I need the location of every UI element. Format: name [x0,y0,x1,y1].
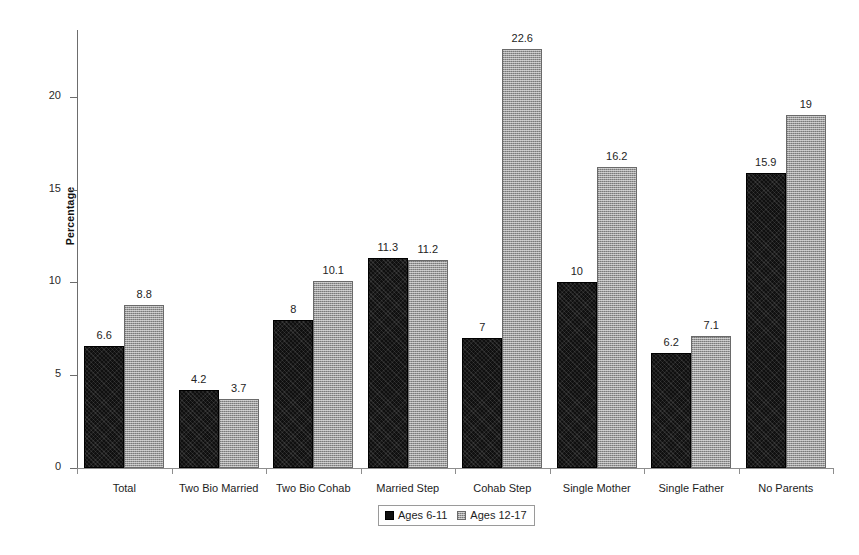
bar-ages-6-11 [368,258,408,468]
bar-value-label: 10.1 [303,264,363,276]
y-axis-tick-label: 0 [55,460,61,472]
y-axis-tick: 0 [70,468,77,469]
y-axis-line [77,30,78,468]
y-axis-tick: 15 [70,190,77,191]
bar-ages-6-11 [462,338,502,468]
y-axis-tick-label: 20 [49,89,61,101]
y-axis-tick-label: 5 [55,367,61,379]
bar-ages-12-17 [219,399,259,468]
bar-ages-6-11 [651,353,691,468]
chart-legend: Ages 6-11 Ages 12-17 [378,505,535,526]
y-axis-tick-label: 15 [49,182,61,194]
legend-label-ages-6-11: Ages 6-11 [398,509,447,521]
x-axis-tick [739,468,740,474]
x-axis-tick [172,468,173,474]
x-axis-category-label: No Parents [727,482,846,494]
bar-ages-12-17 [691,336,731,468]
x-axis-tick [550,468,551,474]
x-axis-tick [361,468,362,474]
x-axis-tick [77,468,78,474]
plot-area: 051015206.68.8Total4.23.7Two Bio Married… [77,30,833,468]
bar-value-label: 16.2 [587,150,647,162]
bar-ages-12-17 [124,305,164,468]
x-axis-tick [455,468,456,474]
bar-value-label: 22.6 [492,32,552,44]
bar-ages-6-11 [746,173,786,468]
bar-value-label: 7.1 [681,319,741,331]
bar-ages-6-11 [273,320,313,468]
bar-ages-12-17 [597,167,637,468]
legend-entry-ages-6-11: Ages 6-11 [385,509,447,521]
x-axis-tick [644,468,645,474]
bar-ages-12-17 [502,49,542,468]
x-axis-tick [266,468,267,474]
bar-ages-6-11 [179,390,219,468]
y-axis-tick: 10 [70,282,77,283]
bar-value-label: 19 [776,98,836,110]
bar-ages-12-17 [313,281,353,468]
x-axis-tick [833,468,834,474]
bar-ages-12-17 [408,260,448,468]
legend-entry-ages-12-17: Ages 12-17 [457,509,526,521]
bar-ages-12-17 [786,115,826,468]
y-axis-tick: 20 [70,97,77,98]
bar-value-label: 3.7 [209,382,269,394]
y-axis-tick: 5 [70,375,77,376]
bar-value-label: 11.2 [398,243,458,255]
bar-ages-6-11 [84,346,124,468]
bar-ages-6-11 [557,282,597,468]
bar-chart-figure: Percentage 051015206.68.8Total4.23.7Two … [0,0,859,555]
legend-swatch-icon-ages-6-11 [385,511,394,520]
legend-label-ages-12-17: Ages 12-17 [470,509,526,521]
bar-value-label: 8.8 [114,288,174,300]
legend-swatch-icon-ages-12-17 [457,511,466,520]
y-axis-tick-label: 10 [49,274,61,286]
